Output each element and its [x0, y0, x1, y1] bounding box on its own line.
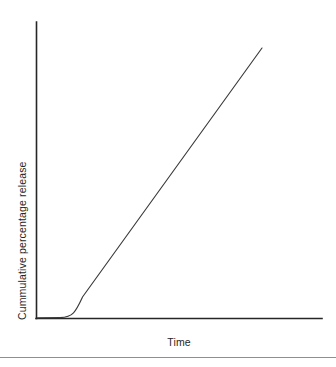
figure-container: Cummulative percentage release Time [0, 0, 336, 367]
release-curve [38, 48, 263, 318]
y-axis-label: Cummulative percentage release [14, 20, 30, 320]
footer-divider [0, 357, 336, 358]
x-axis-label: Time [36, 336, 322, 348]
release-profile-plot [0, 0, 336, 367]
